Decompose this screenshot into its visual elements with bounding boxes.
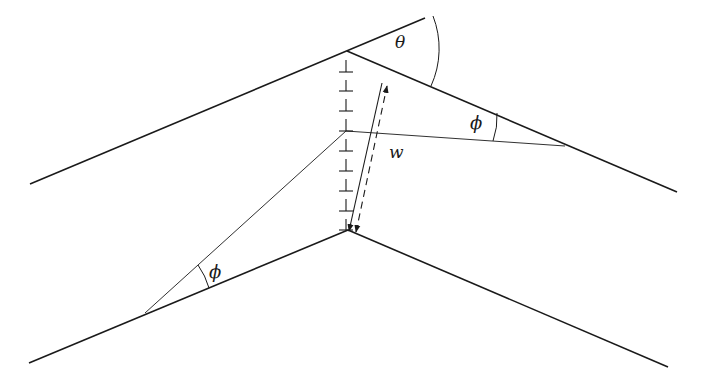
phi-upper-label: ϕ xyxy=(470,114,482,132)
chevron-geometry-diagram xyxy=(0,0,703,386)
ray-to-upper-right xyxy=(346,131,565,146)
lower-left-boundary-line xyxy=(29,230,348,363)
upper-left-boundary-line xyxy=(30,18,425,184)
lower-chevron xyxy=(29,230,668,367)
theta-angle-arc xyxy=(431,16,439,86)
perpendicular-tick-axis xyxy=(339,60,353,230)
theta-label: θ xyxy=(395,34,405,51)
phi-lower-label: ϕ xyxy=(209,263,221,281)
diagram-canvas: θ ϕ ϕ w xyxy=(0,0,703,386)
ray-to-lower-left xyxy=(145,131,346,313)
lower-right-boundary-line xyxy=(348,230,668,367)
phi-lower-angle-arc xyxy=(198,265,209,288)
upper-right-boundary-line xyxy=(347,51,677,192)
width-dimension-solid-line xyxy=(349,83,382,231)
width-dimension-dashed-line xyxy=(356,86,387,232)
upper-chevron xyxy=(30,18,677,192)
width-label: w xyxy=(389,144,404,161)
phi-upper-angle-arc xyxy=(493,113,497,141)
